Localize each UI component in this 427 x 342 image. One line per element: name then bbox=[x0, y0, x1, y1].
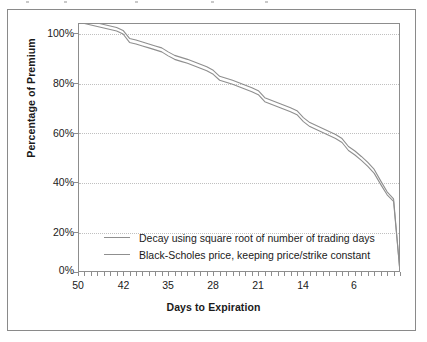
x-tick-mark bbox=[336, 272, 337, 276]
legend-label: Black-Scholes price, keeping price/strik… bbox=[139, 249, 370, 261]
x-tick-mark bbox=[323, 272, 324, 276]
x-tick-mark bbox=[104, 272, 105, 276]
x-tick-mark bbox=[97, 272, 98, 276]
x-tick-mark bbox=[245, 272, 246, 276]
x-tick-mark bbox=[278, 272, 279, 276]
x-tick-mark bbox=[400, 272, 401, 276]
legend-swatch-icon bbox=[104, 237, 130, 238]
x-tick-mark bbox=[123, 272, 124, 276]
x-tick-mark bbox=[368, 272, 369, 276]
x-tick-mark bbox=[258, 272, 259, 276]
decay-chart: Percentage of Premium 100% 80% 60% 40% 2… bbox=[0, 0, 427, 342]
x-tick-mark bbox=[394, 272, 395, 276]
y-tick-label: 20% bbox=[34, 227, 74, 237]
x-tick-mark bbox=[252, 272, 253, 276]
x-tick-mark bbox=[136, 272, 137, 276]
x-tick-mark bbox=[155, 272, 156, 276]
y-tick-label: 40% bbox=[34, 177, 74, 187]
x-tick-mark bbox=[91, 272, 92, 276]
x-tick-mark bbox=[374, 272, 375, 276]
x-tick-mark bbox=[84, 272, 85, 276]
x-tick-label: 21 bbox=[238, 279, 278, 291]
legend-label: Decay using square root of number of tra… bbox=[139, 232, 375, 244]
x-tick-mark bbox=[291, 272, 292, 276]
x-tick-mark bbox=[342, 272, 343, 276]
x-tick-mark bbox=[271, 272, 272, 276]
x-tick-mark bbox=[110, 272, 111, 276]
y-tick-label: 0% bbox=[34, 265, 74, 275]
x-tick-mark bbox=[239, 272, 240, 276]
x-tick-mark bbox=[233, 272, 234, 276]
x-tick-mark bbox=[303, 272, 304, 276]
x-tick-mark bbox=[361, 272, 362, 276]
x-tick-mark bbox=[316, 272, 317, 276]
x-tick-label: 6 bbox=[334, 279, 374, 291]
x-tick-label: 50 bbox=[58, 279, 98, 291]
x-tick-mark bbox=[310, 272, 311, 276]
x-tick-mark bbox=[226, 272, 227, 276]
x-axis-tick-marks bbox=[78, 272, 400, 277]
x-tick-label: 28 bbox=[193, 279, 233, 291]
x-axis-tick-labels: 50 42 35 28 21 14 6 bbox=[0, 279, 427, 293]
x-tick-mark bbox=[175, 272, 176, 276]
x-tick-mark bbox=[162, 272, 163, 276]
y-axis-tick-labels: 100% 80% 60% 40% 20% 0% bbox=[30, 23, 74, 272]
x-tick-mark bbox=[355, 272, 356, 276]
x-tick-mark bbox=[200, 272, 201, 276]
x-tick-mark bbox=[284, 272, 285, 276]
chart-legend: Decay using square root of number of tra… bbox=[104, 229, 394, 263]
x-axis-title: Days to Expiration bbox=[0, 301, 427, 313]
legend-item: Black-Scholes price, keeping price/strik… bbox=[104, 246, 394, 263]
legend-swatch-icon bbox=[104, 254, 130, 255]
x-tick-mark bbox=[265, 272, 266, 276]
y-tick-label: 60% bbox=[34, 128, 74, 138]
x-tick-mark bbox=[381, 272, 382, 276]
x-tick-mark bbox=[149, 272, 150, 276]
x-tick-mark bbox=[194, 272, 195, 276]
x-tick-mark bbox=[297, 272, 298, 276]
x-tick-mark bbox=[220, 272, 221, 276]
y-tick-label: 100% bbox=[34, 28, 74, 38]
x-tick-mark bbox=[207, 272, 208, 276]
x-tick-mark bbox=[348, 272, 349, 276]
x-tick-mark bbox=[387, 272, 388, 276]
x-tick-mark bbox=[187, 272, 188, 276]
x-tick-mark bbox=[168, 272, 169, 276]
x-tick-label: 35 bbox=[148, 279, 188, 291]
x-tick-label: 14 bbox=[283, 279, 323, 291]
x-tick-mark bbox=[142, 272, 143, 276]
x-tick-mark bbox=[117, 272, 118, 276]
x-tick-mark bbox=[78, 272, 79, 276]
x-tick-mark bbox=[181, 272, 182, 276]
x-tick-mark bbox=[329, 272, 330, 276]
x-tick-mark bbox=[130, 272, 131, 276]
y-tick-label: 80% bbox=[34, 78, 74, 88]
x-tick-mark bbox=[213, 272, 214, 276]
legend-item: Decay using square root of number of tra… bbox=[104, 229, 394, 246]
x-tick-label: 42 bbox=[104, 279, 144, 291]
